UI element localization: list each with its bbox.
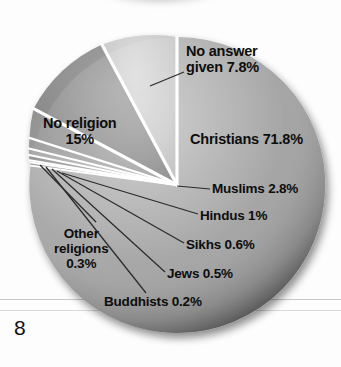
- other-line1: Other: [64, 226, 99, 241]
- slice-label-hindus: Hindus 1%: [200, 208, 267, 223]
- no-religion-line1: No religion: [43, 115, 117, 131]
- other-line3: 0.3%: [66, 256, 96, 271]
- no-answer-line1: No answer: [186, 43, 258, 59]
- page-number: 8: [14, 316, 26, 340]
- slice-label-jews: Jews 0.5%: [167, 266, 233, 281]
- page-canvas: No answergiven 7.8% Christians 71.8% No …: [0, 0, 341, 367]
- no-religion-line2: 15%: [66, 131, 94, 147]
- slice-label-other-religions: Otherreligions0.3%: [54, 226, 108, 271]
- slice-label-sikhs: Sikhs 0.6%: [186, 237, 255, 252]
- slice-label-buddhists: Buddhists 0.2%: [104, 294, 202, 309]
- slice-label-no-religion: No religion15%: [43, 115, 117, 147]
- slice-label-no-answer-given: No answergiven 7.8%: [186, 43, 259, 75]
- slice-label-muslims: Muslims 2.8%: [212, 181, 298, 196]
- slice-label-christians: Christians 71.8%: [190, 131, 303, 147]
- no-answer-line2: given 7.8%: [186, 59, 259, 75]
- other-line2: religions: [54, 241, 108, 256]
